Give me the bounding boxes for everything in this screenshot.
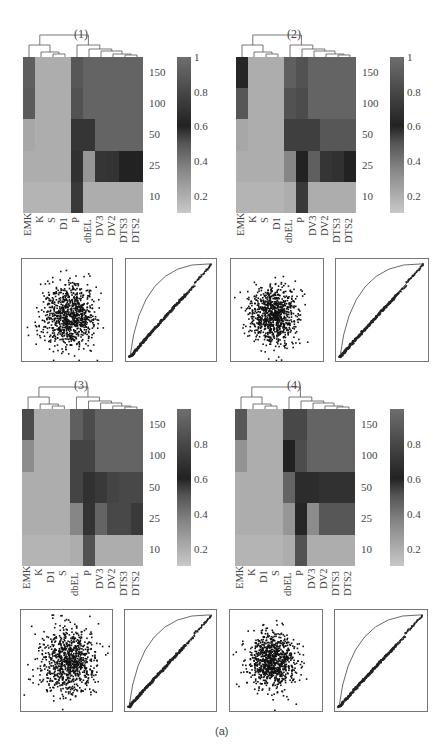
column-label: P xyxy=(70,218,81,224)
heatmap-cell xyxy=(248,88,260,119)
heatmap-cell xyxy=(307,472,319,503)
curve-plot-4 xyxy=(334,609,428,712)
column-label: EMK xyxy=(235,213,246,236)
heatmap-cell xyxy=(247,409,259,440)
heatmap-cell xyxy=(119,440,131,471)
heatmap-cell xyxy=(343,409,355,440)
heatmap-cell xyxy=(247,472,259,503)
heatmap-cell xyxy=(248,182,260,213)
heatmap-cell xyxy=(344,57,356,88)
heatmap-cell xyxy=(23,119,35,150)
heatmap-cell xyxy=(236,57,248,88)
column-label: D1 xyxy=(271,217,282,230)
heatmap-cell xyxy=(83,119,95,150)
heatmap-cell xyxy=(271,440,283,471)
colorbar-tick-label: 0.2 xyxy=(194,543,208,555)
column-label: K xyxy=(247,216,258,224)
heatmap-cell xyxy=(296,151,308,182)
heatmap-cell xyxy=(131,472,143,503)
colorbar-tick-label: 0.6 xyxy=(194,473,208,485)
heatmap-cell xyxy=(331,440,343,471)
heatmap-cell xyxy=(119,472,131,503)
heatmap-cell xyxy=(47,57,59,88)
heatmap-cell xyxy=(283,440,295,471)
column-label: EMK xyxy=(22,213,33,236)
heatmap-cell xyxy=(320,88,332,119)
heatmap-cell xyxy=(107,472,119,503)
colorbar-tick-label: 0.2 xyxy=(407,543,421,555)
heatmap-cell xyxy=(70,440,82,471)
row-label: 10 xyxy=(149,190,160,202)
colorbar-tick-label: 0.2 xyxy=(194,190,208,202)
heatmap-cell xyxy=(331,535,343,566)
heatmap-cell xyxy=(283,409,295,440)
heatmap-cell xyxy=(332,151,344,182)
heatmap-cell xyxy=(271,503,283,534)
row-label: 25 xyxy=(362,159,373,171)
scatter-plot-1 xyxy=(21,258,113,362)
heatmap-cell xyxy=(320,57,332,88)
heatmap-cell xyxy=(259,440,271,471)
heatmap-cell xyxy=(70,472,82,503)
heatmap-cell xyxy=(34,440,46,471)
heatmap-cell xyxy=(95,440,107,471)
colorbar-tick-label: 0.2 xyxy=(407,190,421,202)
heatmap-cell xyxy=(343,503,355,534)
colorbar-tick-label: 1 xyxy=(194,51,200,63)
colorbar-tick-label: 0.6 xyxy=(194,120,208,132)
row-label: 25 xyxy=(149,512,160,524)
heatmap-cell xyxy=(307,503,319,534)
heatmap-cell xyxy=(272,88,284,119)
colorbar-tick-label: 0.8 xyxy=(407,438,421,450)
heatmap-cell xyxy=(34,503,46,534)
heatmap-cell xyxy=(119,535,131,566)
column-label: K xyxy=(246,569,257,577)
dendrogram-1 xyxy=(23,31,143,57)
heatmap-cell xyxy=(47,182,59,213)
heatmap-cell xyxy=(247,535,259,566)
row-label: 150 xyxy=(362,66,379,78)
heatmap-cell xyxy=(344,119,356,150)
heatmap-cell xyxy=(107,182,119,213)
heatmap-cell xyxy=(22,440,34,471)
heatmap-cell xyxy=(260,119,272,150)
heatmap-cell xyxy=(107,151,119,182)
heatmap-cell xyxy=(119,57,131,88)
heatmap-cell xyxy=(34,472,46,503)
row-label: 50 xyxy=(149,128,160,140)
colorbar-tick-label: 0.4 xyxy=(407,508,421,520)
heatmap-cell xyxy=(95,57,107,88)
heatmap-cell xyxy=(35,182,47,213)
column-label: DV3 xyxy=(94,569,105,589)
heatmap-cell xyxy=(131,119,143,150)
heatmap-cell xyxy=(235,503,247,534)
heatmap-cell xyxy=(119,151,131,182)
colorbar-1 xyxy=(177,57,191,213)
heatmap-cell xyxy=(259,409,271,440)
heatmap-cell xyxy=(119,503,131,534)
heatmap-cell xyxy=(308,119,320,150)
column-label: DV3 xyxy=(306,569,317,589)
column-label: dbEL xyxy=(69,572,80,595)
heatmap-cell xyxy=(119,409,131,440)
heatmap-cell xyxy=(283,503,295,534)
heatmap-cell xyxy=(47,88,59,119)
colorbar-tick-label: 0.4 xyxy=(194,155,208,167)
heatmap-cell xyxy=(248,57,260,88)
heatmap-cell xyxy=(131,440,143,471)
heatmap-cell xyxy=(35,119,47,150)
heatmap-4 xyxy=(235,409,355,566)
heatmap-cell xyxy=(296,57,308,88)
heatmap-cell xyxy=(22,503,34,534)
row-label: 100 xyxy=(361,449,378,461)
heatmap-cell xyxy=(83,182,95,213)
column-label: DTS3 xyxy=(330,571,341,596)
column-label: DTS2 xyxy=(343,218,354,243)
heatmap-cell xyxy=(46,472,58,503)
colorbar-3 xyxy=(177,409,191,566)
column-label: P xyxy=(295,218,306,224)
heatmap-cell xyxy=(332,119,344,150)
heatmap-cell xyxy=(284,119,296,150)
heatmap-cell xyxy=(320,151,332,182)
column-label: DTS2 xyxy=(342,571,353,596)
